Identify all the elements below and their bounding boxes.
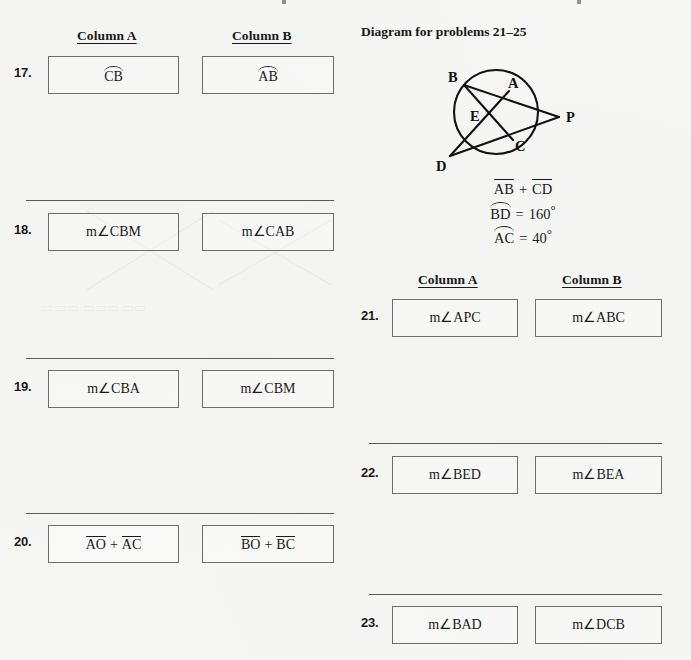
problem-20-b-term2: BC bbox=[276, 535, 295, 552]
problem-20-b-operator: + bbox=[260, 537, 276, 552]
problem-22-number: 22. bbox=[361, 465, 378, 480]
diagram-label-E: E bbox=[470, 108, 480, 124]
circle-geometry-diagram: B A P E C D bbox=[410, 44, 640, 174]
fact-2-equals: = bbox=[511, 206, 529, 222]
fact-2-value: 160 bbox=[529, 206, 551, 222]
problem-18: 18. m∠CBM m∠CAB bbox=[0, 213, 350, 253]
fact-3-equals: = bbox=[514, 230, 532, 246]
right-header-column-a: Column A bbox=[418, 272, 478, 288]
problem-18-value-b: m∠CAB bbox=[242, 225, 295, 240]
problem-22: 22. m∠BED m∠BEA bbox=[355, 456, 691, 496]
problem-23-number: 23. bbox=[361, 615, 378, 630]
problem-19: 19. m∠CBA m∠CBM bbox=[0, 370, 350, 410]
problem-19-cell-a[interactable]: m∠CBA bbox=[48, 370, 179, 408]
problem-17-value-b: AB bbox=[258, 66, 277, 85]
problem-23-cell-a[interactable]: m∠BAD bbox=[392, 606, 518, 644]
fact-1-term2: CD bbox=[532, 178, 552, 198]
left-header-column-b: Column B bbox=[232, 28, 292, 44]
problem-21-cell-b[interactable]: m∠ABC bbox=[535, 299, 662, 337]
problem-23-value-a: m∠BAD bbox=[428, 618, 481, 633]
problem-20-value-b: BO+BC bbox=[241, 535, 295, 553]
fact-2-arc-name: BD bbox=[490, 202, 510, 223]
problem-20-value-a: AO+AC bbox=[86, 535, 142, 553]
fact-1-operator: + bbox=[514, 181, 532, 197]
fact-2-unit: ° bbox=[550, 202, 555, 217]
problem-20-a-operator: + bbox=[106, 537, 122, 552]
problem-19-value-a: m∠CBA bbox=[87, 382, 140, 397]
problem-19-cell-b[interactable]: m∠CBM bbox=[202, 370, 334, 408]
divider-after-19 bbox=[26, 513, 334, 514]
problem-20: 20. AO+AC BO+BC bbox=[0, 525, 350, 565]
diagram-label-D: D bbox=[436, 158, 446, 174]
diagram-fact-2: BD=160° bbox=[355, 202, 691, 223]
divider-after-21 bbox=[369, 443, 662, 444]
problem-17-cell-a[interactable]: CB bbox=[48, 56, 179, 94]
problem-20-a-term1: AO bbox=[86, 535, 106, 552]
problem-21-value-b: m∠ABC bbox=[572, 311, 625, 326]
diagram-label-B: B bbox=[448, 69, 458, 85]
diagram-fact-1: AB+CD bbox=[355, 178, 691, 198]
problem-18-cell-b[interactable]: m∠CAB bbox=[202, 213, 334, 251]
right-header-column-b: Column B bbox=[562, 272, 622, 288]
problem-21-number: 21. bbox=[361, 308, 378, 323]
problem-17-value-a: CB bbox=[104, 66, 123, 85]
right-problem-column: Diagram for problems 21–25 B A P E C D bbox=[355, 0, 691, 660]
problem-20-cell-b[interactable]: BO+BC bbox=[202, 525, 334, 563]
right-column-headers: Column A Column B bbox=[355, 272, 691, 292]
problem-22-value-a: m∠BED bbox=[429, 468, 481, 483]
diagram-label-A: A bbox=[508, 75, 519, 91]
problem-22-value-b: m∠BEA bbox=[573, 468, 625, 483]
problem-20-a-term2: AC bbox=[122, 535, 141, 552]
problem-18-number: 18. bbox=[14, 222, 31, 237]
problem-22-cell-b[interactable]: m∠BEA bbox=[535, 456, 662, 494]
diagram-title: Diagram for problems 21–25 bbox=[361, 24, 527, 40]
problem-18-cell-a[interactable]: m∠CBM bbox=[48, 213, 179, 251]
fact-3-value: 40 bbox=[532, 230, 547, 246]
fact-1-term1: AB bbox=[494, 178, 514, 198]
left-column-headers: Column A Column B bbox=[0, 28, 350, 48]
fact-3-unit: ° bbox=[547, 226, 552, 241]
left-problem-column: Column A Column B 17. CB AB 18. m∠CBM m∠… bbox=[0, 0, 350, 660]
problem-17-number: 17. bbox=[14, 65, 31, 80]
diagram-fact-3: AC=40° bbox=[355, 226, 691, 247]
worksheet-page: ▭ ▭▭ ▭▭▭ ▭▭ Column A Column B 17. CB AB … bbox=[0, 0, 691, 660]
problem-23-value-b: m∠DCB bbox=[572, 618, 625, 633]
problem-18-value-a: m∠CBM bbox=[86, 225, 141, 240]
diagram-label-C: C bbox=[515, 138, 525, 154]
divider-after-22 bbox=[369, 594, 662, 595]
fact-3-arc-name: AC bbox=[494, 226, 514, 247]
problem-17-cell-b[interactable]: AB bbox=[202, 56, 334, 94]
problem-19-number: 19. bbox=[14, 379, 31, 394]
problem-23-cell-b[interactable]: m∠DCB bbox=[535, 606, 662, 644]
problem-22-cell-a[interactable]: m∠BED bbox=[392, 456, 518, 494]
problem-20-number: 20. bbox=[14, 534, 31, 549]
problem-21-cell-a[interactable]: m∠APC bbox=[392, 299, 518, 337]
left-header-column-a: Column A bbox=[77, 28, 137, 44]
problem-23: 23. m∠BAD m∠DCB bbox=[355, 606, 691, 646]
problem-21: 21. m∠APC m∠ABC bbox=[355, 299, 691, 339]
divider-after-17 bbox=[26, 200, 334, 201]
diagram-label-P: P bbox=[566, 109, 575, 125]
problem-20-cell-a[interactable]: AO+AC bbox=[48, 525, 179, 563]
problem-20-b-term1: BO bbox=[241, 535, 260, 552]
problem-21-value-a: m∠APC bbox=[429, 311, 480, 326]
divider-after-18 bbox=[26, 358, 334, 359]
problem-19-value-b: m∠CBM bbox=[240, 382, 295, 397]
problem-17: 17. CB AB bbox=[0, 56, 350, 96]
